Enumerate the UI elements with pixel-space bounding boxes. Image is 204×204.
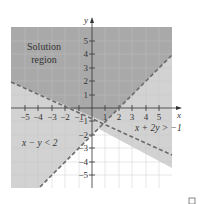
svg-text:4: 4 [144, 112, 149, 122]
svg-text:−2: −2 [60, 112, 70, 122]
svg-text:1: 1 [84, 90, 89, 100]
svg-text:3: 3 [84, 63, 89, 73]
svg-text:−4: −4 [33, 112, 43, 122]
svg-text:−3: −3 [78, 143, 88, 153]
svg-text:−3: −3 [47, 112, 57, 122]
svg-text:−4: −4 [78, 157, 88, 167]
solution-region-label-line1: Solution [27, 41, 61, 52]
y-axis-arrow-icon [90, 17, 94, 23]
svg-text:−5: −5 [20, 112, 30, 122]
svg-text:3: 3 [130, 112, 135, 122]
svg-text:2: 2 [84, 76, 89, 86]
svg-text:2: 2 [117, 112, 122, 122]
x-axis-label: x [176, 110, 181, 120]
inequality-1-label: x − y < 2 [21, 138, 58, 148]
inequality-graph: −5 −4 −3 −2 −1 1 2 3 4 5 −5 −4 −3 −2 −1 … [0, 0, 204, 204]
box-icon [189, 198, 195, 204]
svg-text:4: 4 [84, 49, 89, 59]
y-axis-label: y [83, 15, 88, 25]
svg-text:−5: −5 [78, 170, 88, 180]
svg-text:5: 5 [84, 36, 89, 46]
svg-text:−2: −2 [78, 130, 88, 140]
inequality-2-label: x + 2y > −1 [134, 123, 182, 133]
svg-text:−1: −1 [78, 116, 88, 126]
svg-text:5: 5 [157, 112, 162, 122]
svg-text:1: 1 [103, 112, 108, 122]
solution-region-label-line2: region [31, 54, 57, 65]
